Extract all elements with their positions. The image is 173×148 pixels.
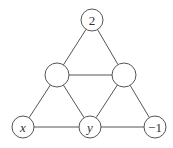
node-bot-left: x [12,116,34,138]
edge-top-mid-left [63,29,86,65]
nodes: 2xy−1 [12,9,166,138]
edge-mid-right-bot-mid [96,85,117,118]
node-circle [45,63,69,87]
edge-mid-left-bot-mid [63,85,84,118]
node-circle [112,63,136,87]
node-label: x [19,120,26,135]
edge-mid-left-bot-left [29,85,50,118]
triangle-diagram: 2xy−1 [0,0,173,148]
node-label: y [85,120,93,135]
edge-mid-right-bot-right [130,85,149,117]
node-mid-left [45,63,69,87]
edge-top-mid-right [98,30,119,65]
diagram-canvas: 2xy−1 [0,0,173,148]
node-mid-right [112,63,136,87]
node-bot-mid: y [79,116,101,138]
node-bot-right: −1 [144,116,166,138]
node-label: −1 [148,120,162,135]
node-label: 2 [89,13,96,28]
node-top: 2 [81,9,103,31]
